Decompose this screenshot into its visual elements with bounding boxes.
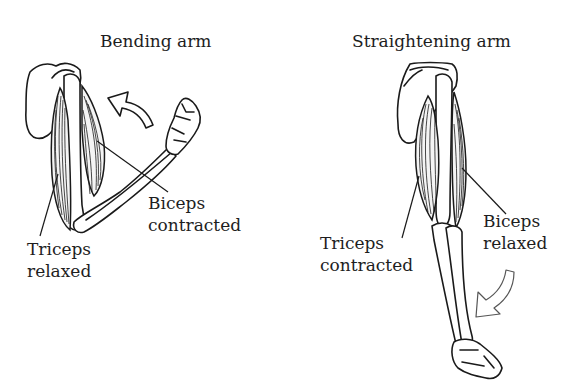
- bending-biceps-label: Biceps contracted: [148, 192, 241, 236]
- bending-biceps-label-line2: contracted: [148, 214, 241, 236]
- straightening-triceps-label: Triceps contracted: [320, 232, 413, 276]
- bending-arm-title: Bending arm: [100, 30, 211, 52]
- straightening-biceps-label: Biceps relaxed: [483, 210, 547, 254]
- bending-triceps-label-line2: relaxed: [27, 260, 91, 282]
- straightening-arm-hand: [452, 339, 502, 378]
- straightening-arm-arrow-icon: [476, 270, 514, 317]
- bending-arm-hand: [166, 98, 200, 154]
- bending-arm-biceps: [82, 86, 105, 196]
- bending-arm-arrow-icon: [108, 92, 153, 128]
- bending-triceps-label-line1: Triceps: [27, 238, 91, 260]
- arm-illustrations: [0, 0, 571, 385]
- bending-biceps-label-line1: Biceps: [148, 192, 241, 214]
- straightening-biceps-label-line1: Biceps: [483, 210, 547, 232]
- straightening-arm-title: Straightening arm: [352, 30, 511, 52]
- straightening-biceps-label-line2: relaxed: [483, 232, 547, 254]
- straightening-arm-biceps: [452, 92, 466, 228]
- straightening-triceps-label-line2: contracted: [320, 254, 413, 276]
- figure-canvas: Bending arm Biceps contracted Triceps re…: [0, 0, 571, 385]
- straightening-arm-forearm: [432, 223, 472, 346]
- straightening-triceps-label-line1: Triceps: [320, 232, 413, 254]
- bending-triceps-label: Triceps relaxed: [27, 238, 91, 282]
